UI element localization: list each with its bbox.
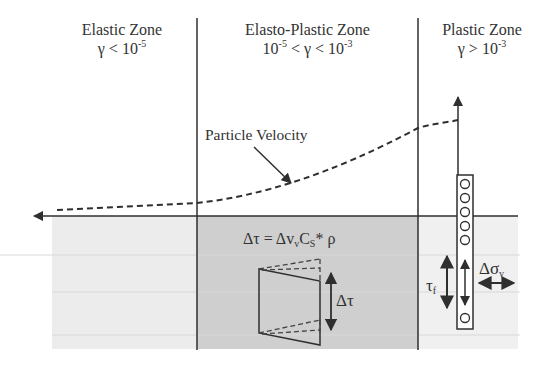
- soil-column: [457, 175, 473, 329]
- elasto-plastic-zone-header: Elasto-Plastic Zone 10-5 < γ < 10-3: [200, 20, 415, 58]
- plastic-zone-title: Plastic Zone: [422, 20, 542, 39]
- delta-sigma-label: Δσv: [479, 259, 504, 278]
- plastic-zone-header: Plastic Zone γ > 10-3: [422, 20, 542, 58]
- elastic-zone-condition: γ < 10-5: [52, 39, 192, 58]
- tau-f-label: τf: [426, 276, 436, 295]
- particle-velocity-label: Particle Velocity: [205, 125, 308, 144]
- elastic-zone-header: Elastic Zone γ < 10-5: [52, 20, 192, 58]
- elastic-zone-title: Elastic Zone: [52, 20, 192, 39]
- shear-stress-equation: Δτ = ΔvvCS* ρ: [243, 229, 335, 248]
- ground-elastic-zone: [52, 216, 197, 349]
- elasto-plastic-zone-condition: 10-5 < γ < 10-3: [200, 39, 415, 58]
- delta-tau-label: Δτ: [336, 291, 354, 310]
- particle-velocity-pointer: [254, 147, 291, 183]
- plastic-zone-condition: γ > 10-3: [422, 39, 542, 58]
- elasto-plastic-zone-title: Elasto-Plastic Zone: [200, 20, 415, 39]
